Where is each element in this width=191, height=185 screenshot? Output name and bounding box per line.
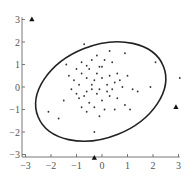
data-point (91, 84, 93, 86)
data-point (88, 68, 90, 70)
data-point (119, 79, 121, 81)
data-point (109, 95, 111, 97)
data-point (124, 52, 126, 54)
data-point (91, 59, 93, 61)
data-point (109, 50, 111, 52)
y-tick-label: −2 (9, 127, 20, 138)
data-point (104, 109, 106, 111)
data-point (78, 84, 80, 86)
axes: −3−2−10123−3−2−10123 (9, 14, 181, 171)
data-point (65, 64, 67, 66)
data-point (111, 61, 113, 63)
outlier-triangle (29, 17, 34, 22)
y-tick-label: −1 (9, 104, 20, 115)
data-point (114, 82, 116, 84)
x-tick-label: 3 (176, 160, 181, 171)
y-tick-label: 3 (15, 14, 20, 25)
data-point (129, 109, 131, 111)
x-tick-label: 1 (125, 160, 130, 171)
data-point (104, 59, 106, 61)
data-point (111, 88, 113, 90)
x-tick-label: 0 (100, 160, 105, 171)
data-point (63, 100, 65, 102)
data-point (155, 61, 157, 63)
outlier-triangle (173, 104, 178, 109)
data-point (150, 86, 152, 88)
data-point (86, 77, 88, 79)
confidence-ellipse (21, 23, 181, 159)
y-tick-label: −3 (9, 149, 20, 160)
data-point (93, 131, 95, 133)
data-point (96, 55, 98, 57)
ellipse-outline (21, 23, 181, 159)
scatter-chart: −3−2−10123−3−2−10123 (0, 0, 191, 185)
data-point (76, 68, 78, 70)
y-tick-label: 0 (15, 82, 20, 93)
y-tick-label: 1 (15, 59, 20, 70)
data-point (86, 111, 88, 113)
data-point (106, 91, 108, 93)
data-point (76, 93, 78, 95)
data-point (71, 88, 73, 90)
x-tick-label: 2 (151, 160, 156, 171)
data-point (86, 65, 88, 67)
data-point (132, 88, 134, 90)
data-point (99, 115, 101, 117)
x-tick-label: −3 (20, 160, 31, 171)
data-point (91, 88, 93, 90)
data-point (73, 79, 75, 81)
data-point (68, 75, 70, 77)
data-point (93, 79, 95, 81)
data-point (99, 66, 101, 68)
data-point (86, 91, 88, 93)
data-point (99, 88, 101, 90)
data-point (114, 109, 116, 111)
data-point (96, 73, 98, 75)
data-point (81, 106, 83, 108)
data-point (124, 104, 126, 106)
x-tick-label: −2 (46, 160, 57, 171)
data-point (101, 100, 103, 102)
data-point (83, 95, 85, 97)
data-point (127, 75, 129, 77)
data-point (179, 77, 181, 79)
data-point (78, 97, 80, 99)
data-point (58, 118, 60, 120)
x-tick-label: −1 (71, 160, 82, 171)
data-point (106, 84, 108, 86)
data-point (93, 106, 95, 108)
data-point (101, 66, 103, 68)
data-point (88, 102, 90, 104)
data-point (81, 61, 83, 63)
data-point (116, 73, 118, 75)
data-point (48, 111, 50, 113)
data-point (116, 97, 118, 99)
data-point (137, 91, 139, 93)
data-point (101, 77, 103, 79)
data-point (109, 75, 111, 77)
data-point (81, 73, 83, 75)
data-point (122, 86, 124, 88)
data-point (96, 93, 98, 95)
y-tick-label: 2 (15, 37, 20, 48)
data-point (83, 43, 85, 45)
